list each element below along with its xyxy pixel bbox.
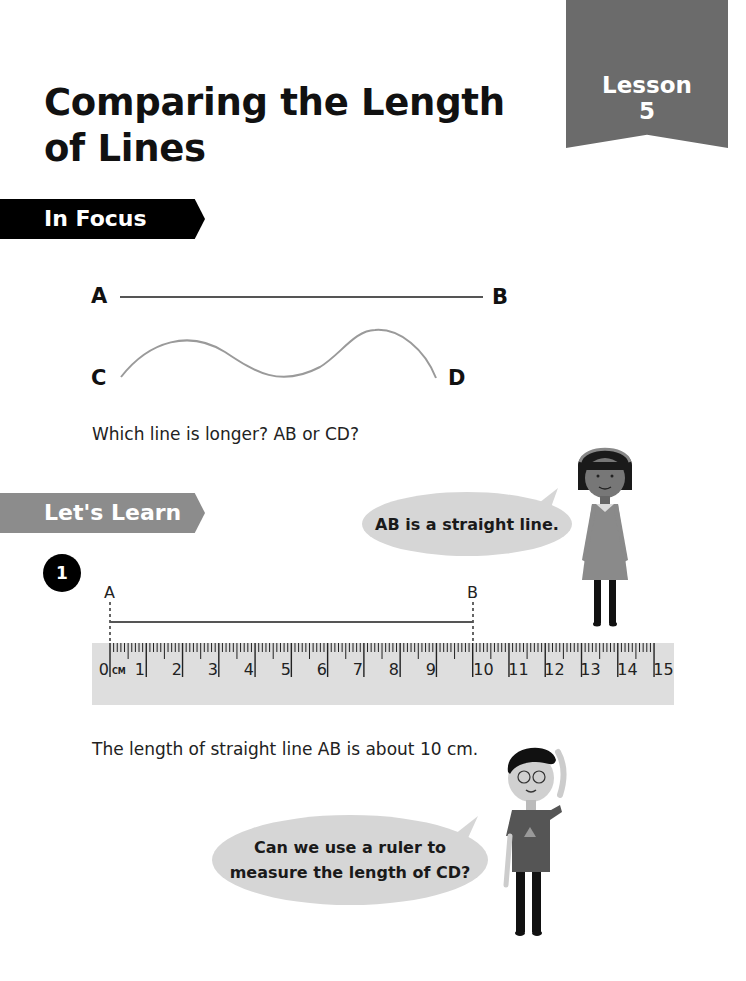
ruler-number-11: 11: [508, 660, 529, 679]
boy-character-icon: [496, 740, 576, 940]
ruler-number-9: 9: [426, 660, 437, 679]
ruler-number-0: 0: [99, 660, 110, 679]
ruler-number-12: 12: [544, 660, 565, 679]
boy-speech-bubble: Can we use a ruler to measure the length…: [212, 815, 488, 905]
ruler: 0 CM 1 2 3 4 5 6 7 8 9 10 11 12 13 14 15: [92, 643, 674, 705]
ruler-number-14: 14: [617, 660, 638, 679]
boy-bubble-tail: [450, 816, 480, 841]
ruler-unit-label: CM: [112, 667, 126, 676]
ruler-number-2: 2: [172, 660, 183, 679]
boy-speech-line-2: measure the length of CD?: [230, 860, 471, 885]
ruler-number-4: 4: [244, 660, 255, 679]
ruler-number-15: 15: [653, 660, 674, 679]
ruler-number-5: 5: [281, 660, 292, 679]
ruler-number-6: 6: [317, 660, 328, 679]
ruler-number-8: 8: [389, 660, 400, 679]
ruler-number-10: 10: [473, 660, 494, 679]
ruler-number-3: 3: [208, 660, 219, 679]
ruler-number-1: 1: [135, 660, 146, 679]
ruler-number-7: 7: [353, 660, 364, 679]
boy-speech-line-1: Can we use a ruler to: [254, 835, 446, 860]
measurement-statement: The length of straight line AB is about …: [92, 739, 478, 759]
ruler-number-13: 13: [580, 660, 601, 679]
